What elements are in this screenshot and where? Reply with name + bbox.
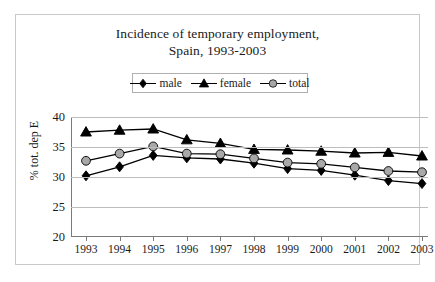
legend-key-triangle-icon: [191, 78, 217, 89]
data-point-circle: [269, 79, 277, 87]
data-point-diamond: [418, 179, 426, 189]
legend-marker: [260, 78, 286, 89]
y-axis-tick-labels: 4035302520: [16, 117, 69, 237]
x-axis-tick: [187, 237, 188, 241]
legend-label: male: [159, 77, 181, 89]
x-axis-tick: [388, 237, 389, 241]
data-point-circle: [350, 163, 359, 172]
chart-title-line-2: Spain, 1993-2003: [16, 42, 419, 59]
chart-legend: malefemaletotal: [132, 73, 308, 93]
legend-key-circle-icon: [260, 78, 286, 89]
y-axis-tick-label: 25: [53, 200, 66, 215]
x-axis-tick: [153, 237, 154, 241]
data-point-circle: [418, 168, 427, 177]
gridline: [71, 117, 428, 118]
y-axis-tick-label: 35: [53, 140, 66, 155]
x-axis-tick: [120, 237, 121, 241]
x-axis-tick: [220, 237, 221, 241]
legend-item-female[interactable]: female: [191, 77, 251, 89]
x-axis-tick: [86, 237, 87, 241]
x-axis-tick-label: 2001: [343, 243, 366, 255]
chart-title: Incidence of temporary employment, Spain…: [16, 25, 419, 59]
legend-item-male[interactable]: male: [130, 77, 181, 89]
x-axis-tick: [288, 237, 289, 241]
legend-label: total: [289, 77, 309, 89]
x-axis-tick-label: 1998: [243, 243, 266, 255]
data-point-circle: [115, 149, 124, 158]
data-point-circle: [216, 150, 225, 159]
y-axis-tick-label: 30: [53, 170, 66, 185]
data-point-triangle: [148, 124, 159, 133]
x-axis-tick: [321, 237, 322, 241]
data-point-circle: [250, 154, 259, 163]
x-axis-ticks: [71, 237, 428, 242]
gridline: [71, 177, 428, 178]
x-axis-tick-label: 2003: [411, 243, 434, 255]
legend-item-total[interactable]: total: [260, 77, 309, 89]
legend-marker: [191, 78, 217, 89]
data-point-circle: [82, 156, 91, 165]
x-axis-tick-label: 1994: [108, 243, 131, 255]
data-point-diamond: [140, 79, 147, 88]
x-axis-tick-label: 2002: [377, 243, 400, 255]
x-axis-tick-label: 1997: [209, 243, 232, 255]
y-axis-tick-label: 20: [53, 230, 66, 245]
data-point-triangle: [199, 78, 208, 86]
chart-figure: Incidence of temporary employment, Spain…: [15, 14, 420, 265]
x-axis-tick-label: 2000: [310, 243, 333, 255]
x-axis-tick: [422, 237, 423, 241]
data-point-circle: [182, 149, 191, 158]
x-axis-tick-labels: 1993199419951996199719981999200020012002…: [71, 243, 428, 259]
gridline: [71, 207, 428, 208]
plot-area: [71, 117, 428, 237]
data-point-diamond: [82, 171, 90, 181]
legend-marker: [130, 78, 156, 89]
x-axis-tick-label: 1999: [276, 243, 299, 255]
y-axis-tick-label: 40: [53, 110, 66, 125]
data-point-diamond: [149, 150, 157, 160]
data-point-triangle: [383, 147, 394, 156]
x-axis-tick-label: 1995: [142, 243, 165, 255]
x-axis-tick-label: 1996: [175, 243, 198, 255]
data-point-diamond: [116, 162, 124, 172]
data-point-circle: [317, 159, 326, 168]
legend-label: female: [220, 77, 251, 89]
x-axis-tick-label: 1993: [75, 243, 98, 255]
chart-title-line-1: Incidence of temporary employment,: [16, 25, 419, 42]
data-point-circle: [384, 167, 393, 176]
data-point-circle: [283, 158, 292, 167]
x-axis-tick: [254, 237, 255, 241]
x-axis-tick: [355, 237, 356, 241]
gridline: [71, 147, 428, 148]
legend-key-diamond-icon: [130, 78, 156, 89]
